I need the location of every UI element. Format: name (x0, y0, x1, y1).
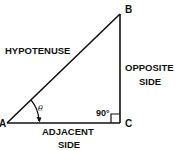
right-triangle-diagram: A B C HYPOTENUSE OPPOSITE SIDE ADJACENT … (0, 0, 177, 150)
adjacent-side-label-line2: SIDE (58, 139, 80, 150)
opposite-side-label-line2: SIDE (139, 76, 161, 87)
opposite-side-label-line1: OPPOSITE (125, 62, 174, 73)
hypotenuse-line (7, 14, 120, 123)
vertex-a-label: A (0, 118, 6, 129)
theta-arrowhead-icon (37, 117, 42, 123)
right-angle-marker (111, 114, 120, 123)
hypotenuse-label: HYPOTENUSE (5, 45, 70, 56)
vertex-b-label: B (125, 4, 132, 15)
right-angle-label: 90° (96, 108, 110, 118)
vertex-c-label: C (125, 118, 132, 129)
adjacent-side-label-line1: ADJACENT (42, 126, 94, 137)
theta-label: θ (38, 104, 43, 113)
